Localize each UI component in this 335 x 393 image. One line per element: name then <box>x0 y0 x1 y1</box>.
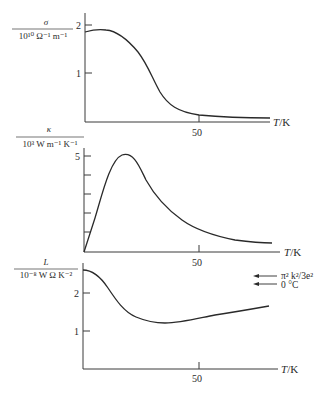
x-tick-label: 50 <box>192 127 202 138</box>
x-axis-label: T/K <box>284 246 301 258</box>
y-tick-label: 2 <box>74 288 79 299</box>
panel-lorenz: 2 1 50 L 10⁻⁸ W Ω K⁻² T/K π² k²/3e² 0 °C <box>14 257 313 384</box>
y-label-denominator: 10⁻⁸ W Ω K⁻² <box>20 270 73 280</box>
y-label-numerator: σ <box>44 17 49 27</box>
sigma-curve <box>85 30 270 118</box>
x-tick-label: 50 <box>192 373 202 384</box>
y-tick-label: 1 <box>74 326 79 337</box>
x-tick-label: 50 <box>192 257 202 268</box>
panel-sigma: 2 1 σ 10¹⁰ Ω⁻¹ m⁻¹ T/K <box>12 13 290 128</box>
y-label-denominator: 10³ W m⁻¹ K⁻¹ <box>22 139 77 149</box>
annotation-label: 0 °C <box>281 280 298 290</box>
y-label-numerator: L <box>42 257 48 267</box>
x-axis-label: T/K <box>281 363 298 375</box>
arrow-left-icon <box>253 282 259 286</box>
figure: 2 1 σ 10¹⁰ Ω⁻¹ m⁻¹ T/K 5 50 50 κ 10³ W m… <box>0 0 335 393</box>
y-tick-label: 2 <box>76 20 81 31</box>
y-tick-label: 1 <box>76 68 81 79</box>
kappa-curve <box>84 154 272 252</box>
y-label-denominator: 10¹⁰ Ω⁻¹ m⁻¹ <box>19 31 68 41</box>
x-axis-label: T/K <box>273 116 290 128</box>
y-label-numerator: κ <box>47 124 52 134</box>
lorenz-curve <box>83 270 269 323</box>
arrow-left-icon <box>253 274 259 278</box>
panel-kappa: 5 50 50 κ 10³ W m⁻¹ K⁻¹ T/K <box>16 124 301 268</box>
y-tick-label: 5 <box>75 151 80 162</box>
annotation-0C: 0 °C <box>253 280 298 290</box>
